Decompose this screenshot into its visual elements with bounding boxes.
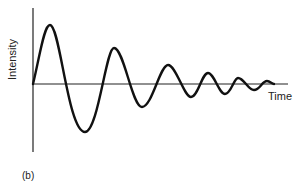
x-axis-label: Time [268, 90, 292, 102]
oscillation-curve [33, 25, 274, 132]
damped-oscillation-chart [0, 0, 306, 191]
y-axis-label: Intensity [6, 39, 18, 80]
panel-label: (b) [22, 170, 34, 181]
